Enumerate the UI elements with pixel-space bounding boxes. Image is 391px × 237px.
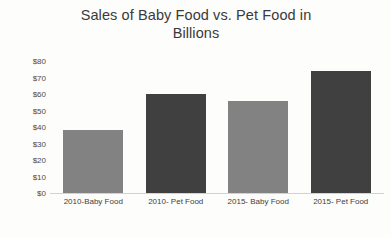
chart-title: Sales of Baby Food vs. Pet Food in Billi… xyxy=(38,6,354,42)
bar xyxy=(311,71,371,193)
x-axis-category-label: 2015- Baby Food xyxy=(217,197,300,206)
bar-slot xyxy=(52,61,135,193)
bar xyxy=(63,130,123,193)
y-axis-tick-label: $50 xyxy=(0,106,46,115)
y-axis-tick-label: $30 xyxy=(0,139,46,148)
y-axis-tick-label: $60 xyxy=(0,90,46,99)
bar-slot xyxy=(135,61,218,193)
bar-series xyxy=(52,61,382,193)
y-axis-tick-label: $0 xyxy=(0,189,46,198)
y-axis-tick-label: $40 xyxy=(0,123,46,132)
y-axis-tick-label: $70 xyxy=(0,73,46,82)
y-axis-tick-label: $80 xyxy=(0,57,46,66)
x-axis-labels: 2010-Baby Food2010- Pet Food2015- Baby F… xyxy=(52,197,382,217)
y-axis: $0$10$20$30$40$50$60$70$80 xyxy=(0,61,46,193)
bar-chart: Sales of Baby Food vs. Pet Food in Billi… xyxy=(0,0,391,237)
bar-slot xyxy=(300,61,383,193)
y-axis-tick-label: $10 xyxy=(0,172,46,181)
x-axis-category-label: 2015- Pet Food xyxy=(300,197,383,206)
bar-slot xyxy=(217,61,300,193)
x-axis-category-label: 2010-Baby Food xyxy=(52,197,135,206)
chart-title-line-2: Billions xyxy=(38,24,354,42)
x-axis-category-label: 2010- Pet Food xyxy=(135,197,218,206)
y-axis-tick-label: $20 xyxy=(0,156,46,165)
chart-title-line-1: Sales of Baby Food vs. Pet Food in xyxy=(38,6,354,24)
bar xyxy=(146,94,206,193)
bar xyxy=(228,101,288,193)
